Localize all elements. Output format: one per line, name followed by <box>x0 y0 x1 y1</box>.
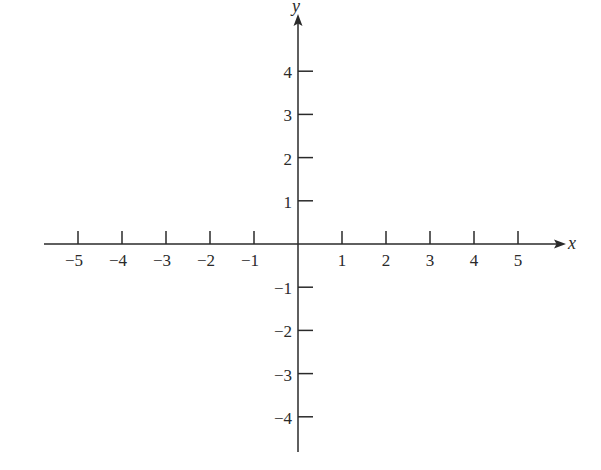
y-tick-label: 4 <box>284 64 293 81</box>
x-tick-label: −2 <box>197 252 215 269</box>
y-tick-label: −4 <box>274 409 292 426</box>
x-tick-label: −1 <box>241 252 259 269</box>
x-tick-label: 5 <box>514 252 523 269</box>
y-axis-label: y <box>292 0 300 15</box>
x-tick-label: 2 <box>382 252 391 269</box>
y-tick-label: −2 <box>274 323 292 340</box>
x-tick-label: −5 <box>65 252 83 269</box>
y-tick-label: 1 <box>284 193 293 210</box>
x-tick-label: 3 <box>426 252 435 269</box>
y-tick-label: −3 <box>274 366 292 383</box>
coordinate-plane <box>0 0 601 470</box>
x-tick-label: 1 <box>338 252 347 269</box>
x-axis-label: x <box>568 235 576 252</box>
x-tick-label: 4 <box>470 252 479 269</box>
y-tick-label: −1 <box>274 280 292 297</box>
x-tick-label: −3 <box>153 252 171 269</box>
x-tick-label: −4 <box>109 252 127 269</box>
y-tick-label: 3 <box>284 107 293 124</box>
y-tick-label: 2 <box>284 150 293 167</box>
